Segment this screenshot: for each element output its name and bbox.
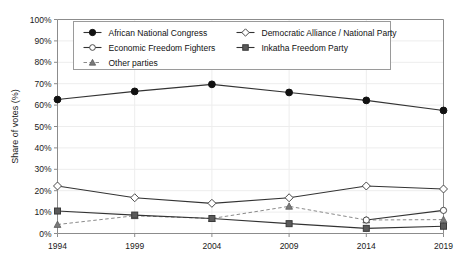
y-axis-title-text: Share of votes (%) xyxy=(10,89,20,164)
x-tick-label: 2019 xyxy=(434,241,453,251)
y-tick-label: 70% xyxy=(34,79,51,89)
chart-legend: African National CongressDemocratic Alli… xyxy=(74,22,398,70)
y-tick-label: 100% xyxy=(30,15,52,25)
data-point-marker xyxy=(363,217,369,223)
legend-label: African National Congress xyxy=(109,28,208,38)
data-point-marker xyxy=(132,212,138,218)
y-tick-label: 90% xyxy=(34,36,51,46)
legend-label: Other parties xyxy=(109,58,158,68)
x-tick-label: 2004 xyxy=(202,241,221,251)
data-point-marker xyxy=(363,225,369,231)
data-point-marker xyxy=(363,97,370,104)
legend-label: Economic Freedom Fighters xyxy=(109,43,216,53)
data-point-marker xyxy=(89,29,95,35)
y-tick-label: 60% xyxy=(34,100,51,110)
data-point-marker xyxy=(243,45,249,51)
chart-container: 0%10%20%30%40%50%60%70%80%90%100% 199419… xyxy=(0,0,468,268)
data-point-marker xyxy=(90,45,96,51)
data-point-marker xyxy=(131,88,138,95)
data-point-marker xyxy=(55,208,61,214)
data-point-marker xyxy=(209,216,215,222)
y-tick-label: 80% xyxy=(34,57,51,67)
y-tick-label: 10% xyxy=(34,207,51,217)
y-axis-title: Share of votes (%) xyxy=(10,89,20,164)
x-tick-label: 1994 xyxy=(48,241,67,251)
data-point-marker xyxy=(440,107,447,114)
data-point-marker xyxy=(286,221,292,227)
data-point-marker xyxy=(54,96,61,103)
line-chart: 0%10%20%30%40%50%60%70%80%90%100% 199419… xyxy=(0,0,468,268)
data-point-marker xyxy=(440,207,446,213)
x-tick-label: 2014 xyxy=(357,241,376,251)
data-point-marker xyxy=(209,81,216,88)
y-tick-label: 0% xyxy=(39,229,52,239)
y-tick-label: 50% xyxy=(34,122,51,132)
y-tick-label: 30% xyxy=(34,164,51,174)
data-point-marker xyxy=(286,89,293,96)
x-tick-label: 1999 xyxy=(125,241,144,251)
y-tick-label: 20% xyxy=(34,186,51,196)
legend-item-democratic-alliance-national-party[interactable]: Democratic Alliance / National Party xyxy=(237,28,398,38)
data-point-marker xyxy=(441,223,447,229)
legend-label: Inkatha Freedom Party xyxy=(262,43,349,53)
y-tick-label: 40% xyxy=(34,143,51,153)
legend-label: Democratic Alliance / National Party xyxy=(262,28,398,38)
x-tick-label: 2009 xyxy=(280,241,299,251)
